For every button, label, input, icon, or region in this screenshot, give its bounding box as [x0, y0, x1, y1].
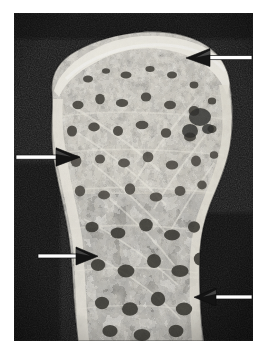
bone-specimen-image	[14, 13, 253, 341]
figure-root	[0, 0, 270, 353]
photograph-plate	[14, 13, 253, 341]
